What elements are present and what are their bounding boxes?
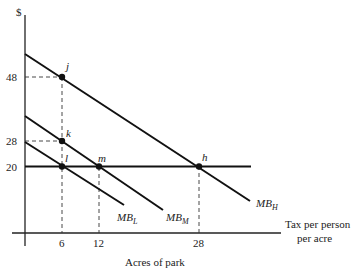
tax-label-line1: Tax per person <box>285 218 351 230</box>
y-tick-28: 28 <box>6 135 18 147</box>
x-axis-title: Acres of park <box>125 256 185 268</box>
label-k: k <box>66 127 72 139</box>
point-l <box>59 163 65 169</box>
x-tick-6: 6 <box>59 237 65 249</box>
chart: j k l m h $ 48 28 20 6 12 28 Acres of pa… <box>0 0 355 269</box>
mb-m-label: MBM <box>165 211 190 226</box>
point-h <box>196 163 202 169</box>
mb-l-label: MBL <box>116 211 138 226</box>
mb-h-line <box>25 54 250 201</box>
mb-h-label: MBH <box>255 197 279 212</box>
guide-lines <box>25 77 199 233</box>
point-m <box>96 163 102 169</box>
y-axis-label: $ <box>16 6 22 18</box>
label-l: l <box>65 152 68 164</box>
point-j <box>59 74 65 80</box>
tax-label-line2: per acre <box>297 232 332 244</box>
label-j: j <box>64 60 69 72</box>
label-m: m <box>98 152 106 164</box>
y-tick-20: 20 <box>6 161 18 173</box>
x-tick-28: 28 <box>193 237 205 249</box>
y-tick-48: 48 <box>6 71 18 83</box>
point-k <box>59 138 65 144</box>
x-tick-12: 12 <box>93 237 104 249</box>
label-h: h <box>202 151 208 163</box>
